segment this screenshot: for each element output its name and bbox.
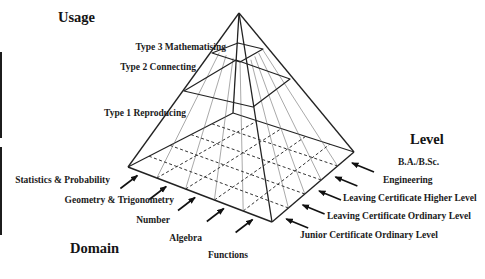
domain-axis-title: Domain bbox=[70, 240, 119, 256]
usage-type2-label: Type 2 Connecting bbox=[66, 62, 196, 73]
scan-artifact-upper bbox=[0, 52, 2, 138]
domain-functions-label: Functions bbox=[166, 250, 248, 261]
usage-type1-label: Type 1 Reproducing bbox=[56, 108, 186, 119]
level-axis-title: Level bbox=[410, 131, 444, 147]
domain-statistics-label: Statistics & Probability bbox=[4, 175, 110, 186]
domain-number-label: Number bbox=[96, 215, 170, 226]
level-lc-higher-label: Leaving Certificate Higher Level bbox=[343, 193, 477, 204]
scan-artifact-lower bbox=[0, 147, 2, 235]
level-engineering-label: Engineering bbox=[383, 175, 433, 186]
level-jc-ordinary-label: Junior Certificate Ordinary Level bbox=[300, 230, 438, 241]
level-lc-ordinary-label: Leaving Certificate Ordinary Level bbox=[327, 211, 471, 222]
face-grid-lines bbox=[157, 50, 338, 211]
level-ba-bsc-label: B.A./B.Sc. bbox=[398, 157, 439, 168]
domain-algebra-label: Algebra bbox=[126, 233, 202, 244]
usage-axis-title: Usage bbox=[58, 9, 95, 25]
usage-type3-label: Type 3 Mathematising bbox=[86, 42, 226, 53]
domain-geometry-label: Geometry & Trigonometry bbox=[30, 195, 174, 206]
pyramid-figure: Usage Type 3 Mathematising Type 2 Connec… bbox=[0, 0, 485, 279]
